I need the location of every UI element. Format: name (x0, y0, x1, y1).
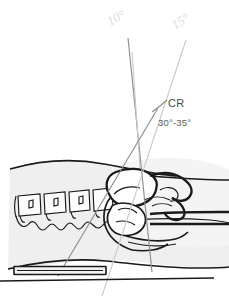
central-ray-label: CR (168, 97, 185, 109)
figure-canvas: 10° 15° CR 30°-35° (0, 0, 229, 299)
pencil-angle-right: 15° (169, 10, 192, 32)
image-receptor (14, 267, 106, 275)
pencil-angle-left: 10° (104, 7, 127, 29)
pencil-angle-left-text: 10° (104, 7, 127, 29)
radiograph-positioning-figure: 10° 15° CR 30°-35° (0, 0, 229, 299)
cr-angle-label: 30°-35° (158, 117, 191, 128)
pencil-angle-right-text: 15° (169, 10, 192, 32)
